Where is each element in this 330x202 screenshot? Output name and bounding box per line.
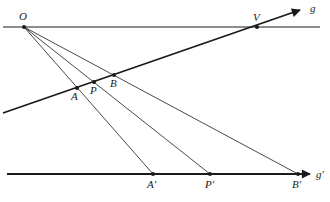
point-label-a: A: [70, 90, 78, 102]
point-p-prime: [208, 172, 212, 176]
point-label-b: B: [110, 77, 117, 89]
line-g-label: g: [310, 2, 316, 14]
line-g: [3, 10, 300, 113]
ray-O-P-prime: [24, 27, 210, 174]
line-g-prime-label: g′: [316, 168, 325, 180]
point-label-v: V: [253, 11, 261, 23]
point-label-a-prime: A′: [146, 178, 157, 190]
ray-O-B-prime: [24, 27, 298, 174]
ray-O-A-prime: [24, 27, 153, 174]
point-o: [22, 25, 26, 29]
point-label-o: O: [19, 10, 27, 22]
point-b-prime: [296, 172, 300, 176]
projection-diagram: g g′ OVAPBA′P′B′: [0, 0, 330, 202]
point-label-p-prime: P′: [204, 178, 215, 190]
point-label-b-prime: B′: [292, 178, 302, 190]
point-label-p: P: [89, 84, 97, 96]
point-v: [255, 25, 259, 29]
point-a-prime: [151, 172, 155, 176]
